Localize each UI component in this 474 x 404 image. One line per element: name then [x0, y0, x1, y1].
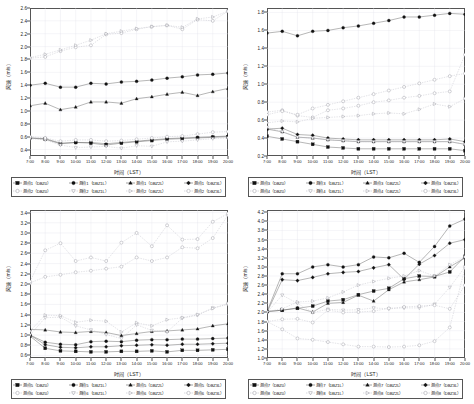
- plot-canvas-3: [267, 210, 465, 358]
- legend-item[interactable]: 测点5（DBZ0）: [13, 381, 51, 389]
- x-tick-mark: [358, 358, 359, 361]
- y-tick-mark: [27, 345, 30, 346]
- legend-item[interactable]: 测点3（DBZ1L）: [306, 179, 346, 187]
- legend-item-label: 测点4（DBZ2L）: [373, 188, 403, 194]
- x-tick-mark: [327, 358, 328, 361]
- y-tick-mark: [264, 276, 267, 277]
- legend-item[interactable]: 测点2（DBZ0）: [13, 187, 51, 195]
- legend-item[interactable]: 测点4（DBZ1L）: [306, 187, 346, 195]
- y-tick-mark: [264, 294, 267, 295]
- y-axis-label-0: 风速（m/s）: [1, 0, 13, 150]
- x-tick-mark: [106, 156, 107, 159]
- legend-item[interactable]: 测点6（DBZ2L）: [126, 389, 166, 397]
- x-tick-mark: [121, 156, 122, 159]
- x-tick-mark: [282, 358, 283, 361]
- legend-item-label: 测点3（DBZ3L）: [431, 180, 461, 186]
- legend-item[interactable]: 测点1（DBZ0）: [13, 179, 51, 187]
- legend-item-label: 测点4（DBZ1L）: [316, 188, 346, 194]
- legend-item[interactable]: 测点7（DBZ1L）: [306, 381, 346, 389]
- legend-item[interactable]: 测点6（DBZ1L）: [69, 389, 109, 397]
- x-tick-mark: [30, 156, 31, 159]
- legend-item[interactable]: 测点1（DBZ2L）: [126, 179, 166, 187]
- legend-item-label: 测点5（DBZ0）: [23, 382, 51, 388]
- legend-item[interactable]: 测点2（DBZ1L）: [69, 187, 109, 195]
- legend-item[interactable]: 测点6（DBZ0）: [13, 389, 51, 397]
- x-tick-mark: [297, 358, 298, 361]
- open-circle-marker: [184, 187, 193, 195]
- filled-diamond-marker: [421, 381, 430, 389]
- filled-triangle-up-marker: [363, 179, 372, 187]
- x-tick-mark: [404, 358, 405, 361]
- legend-item[interactable]: 测点3（DBZ2L）: [363, 179, 403, 187]
- y-tick-mark: [27, 110, 30, 111]
- legend-item[interactable]: 测点1（DBZ3L）: [184, 179, 224, 187]
- legend-item[interactable]: 测点7（DBZ3L）: [421, 381, 461, 389]
- y-tick-mark: [27, 149, 30, 150]
- legend-item-label: 测点6（DBZ1L）: [79, 390, 109, 396]
- y-tick-mark: [264, 285, 267, 286]
- legend-item-label: 测点5（DBZ3L）: [194, 382, 224, 388]
- y-tick-mark: [264, 239, 267, 240]
- legend-item-label: 测点2（DBZ3L）: [194, 188, 224, 194]
- legend-item[interactable]: 测点2（DBZ3L）: [184, 187, 224, 195]
- x-tick-mark: [312, 156, 313, 159]
- y-tick-mark: [264, 330, 267, 331]
- legend-item[interactable]: 测点7（DBZ0）: [250, 381, 288, 389]
- y-tick-mark: [264, 48, 267, 49]
- legend-item-label: 测点1（DBZ1L）: [79, 180, 109, 186]
- legend-item[interactable]: 测点8（DBZ2L）: [363, 389, 403, 397]
- legend-item-label: 测点4（DBZ0）: [260, 188, 288, 194]
- y-tick-mark: [264, 348, 267, 349]
- x-tick-mark: [45, 156, 46, 159]
- x-tick-mark: [45, 358, 46, 361]
- legend-item[interactable]: 测点4（DBZ2L）: [363, 187, 403, 195]
- y-tick-mark: [27, 355, 30, 356]
- figure-panels-grid: 风速（m/s） 0.40.60.81.01.21.41.61.82.02.22.…: [0, 0, 474, 404]
- y-tick-mark: [27, 294, 30, 295]
- x-tick-mark: [419, 358, 420, 361]
- legend-item[interactable]: 测点2（DBZ2L）: [126, 187, 166, 195]
- x-tick-mark: [167, 156, 168, 159]
- legend-item[interactable]: 测点1（DBZ1L）: [69, 179, 109, 187]
- y-axis-label-1: 风速（m/s）: [238, 0, 250, 150]
- x-tick-mark: [30, 358, 31, 361]
- y-tick-mark: [27, 222, 30, 223]
- y-tick-mark: [27, 324, 30, 325]
- filled-circle-marker: [69, 179, 78, 187]
- legend-item[interactable]: 测点3（DBZ0）: [250, 179, 288, 187]
- legend-item[interactable]: 测点5（DBZ1L）: [69, 381, 109, 389]
- legend-item[interactable]: 测点8（DBZ1L）: [306, 389, 346, 397]
- legend-1: 测点3（DBZ0）测点3（DBZ1L）测点3（DBZ2L）测点3（DBZ3L）测…: [248, 177, 463, 197]
- filled-circle-marker: [69, 381, 78, 389]
- legend-item[interactable]: 测点5（DBZ3L）: [184, 381, 224, 389]
- legend-item[interactable]: 测点4（DBZ3L）: [421, 187, 461, 195]
- legend-item[interactable]: 测点8（DBZ0）: [250, 389, 288, 397]
- filled-diamond-marker: [184, 179, 193, 187]
- y-tick-mark: [27, 253, 30, 254]
- legend-item[interactable]: 测点8（DBZ3L）: [421, 389, 461, 397]
- legend-item[interactable]: 测点6（DBZ3L）: [184, 389, 224, 397]
- filled-triangle-up-marker: [363, 381, 372, 389]
- legend-item[interactable]: 测点7（DBZ2L）: [363, 381, 403, 389]
- x-tick-mark: [388, 358, 389, 361]
- legend-row: 测点3（DBZ0）测点3（DBZ1L）测点3（DBZ2L）测点3（DBZ3L）: [250, 179, 461, 187]
- legend-0: 测点1（DBZ0）测点1（DBZ1L）测点1（DBZ2L）测点1（DBZ3L）测…: [11, 177, 226, 197]
- legend-item-label: 测点8（DBZ2L）: [373, 390, 403, 396]
- legend-item[interactable]: 测点5（DBZ2L）: [126, 381, 166, 389]
- x-tick-mark: [267, 156, 268, 159]
- legend-item-label: 测点3（DBZ0）: [260, 180, 288, 186]
- y-tick-mark: [27, 284, 30, 285]
- open-triangle-down-marker: [306, 389, 315, 397]
- x-tick-mark: [151, 156, 152, 159]
- x-tick-mark: [182, 358, 183, 361]
- filled-square-marker: [13, 179, 22, 187]
- legend-item[interactable]: 测点4（DBZ0）: [250, 187, 288, 195]
- x-tick-mark: [106, 358, 107, 361]
- open-circle-marker: [421, 187, 430, 195]
- y-tick-mark: [264, 84, 267, 85]
- y-tick-mark: [264, 339, 267, 340]
- legend-item-label: 测点8（DBZ1L）: [316, 390, 346, 396]
- legend-item[interactable]: 测点3（DBZ3L）: [421, 179, 461, 187]
- legend-item-label: 测点6（DBZ0）: [23, 390, 51, 396]
- x-tick-mark: [434, 156, 435, 159]
